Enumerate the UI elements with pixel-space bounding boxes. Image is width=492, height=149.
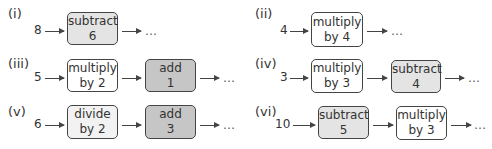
arrow-icon: [45, 31, 64, 32]
arrow-icon: [122, 78, 141, 79]
part-label: (i): [8, 6, 22, 21]
input-value: 10: [275, 117, 290, 131]
ellipsis: …: [391, 24, 404, 38]
input-value: 5: [34, 70, 42, 84]
ellipsis: …: [474, 118, 487, 132]
operation: add: [146, 61, 195, 76]
arrow-icon: [367, 31, 387, 32]
function-box: multiply by 2: [67, 59, 118, 92]
arrow-icon: [451, 125, 471, 126]
operand: 4: [392, 77, 440, 92]
operand: by 3: [397, 123, 446, 138]
ellipsis: …: [145, 24, 158, 38]
operation: subtract: [319, 108, 368, 123]
arrow-icon: [122, 31, 141, 32]
operand: by 3: [312, 76, 362, 91]
operation: multiply: [397, 108, 446, 123]
input-value: 6: [34, 117, 42, 131]
arrow-icon: [373, 125, 393, 126]
function-box: add 1: [145, 59, 196, 92]
operand: 1: [146, 76, 195, 91]
arrow-icon: [122, 125, 141, 126]
operation: multiply: [312, 15, 362, 30]
part-label: (v): [8, 104, 26, 119]
arrow-icon: [45, 125, 64, 126]
operand: 5: [319, 123, 368, 138]
function-box: divide by 2: [67, 105, 118, 139]
operand: by 2: [68, 76, 117, 91]
function-box: multiply by 3: [311, 59, 363, 93]
operand: 6: [68, 29, 117, 44]
arrow-icon: [200, 78, 219, 79]
arrow-icon: [200, 125, 219, 126]
function-box: multiply by 3: [396, 106, 447, 140]
arrow-icon: [290, 31, 308, 32]
operation: add: [146, 107, 195, 122]
operation: multiply: [312, 61, 362, 76]
function-box: subtract 4: [391, 60, 441, 93]
arrow-icon: [290, 78, 308, 79]
part-label: (ii): [255, 6, 272, 21]
arrow-icon: [293, 125, 315, 126]
operand: 3: [146, 122, 195, 137]
input-value: 4: [280, 23, 288, 37]
part-label: (iv): [255, 56, 276, 71]
input-value: 8: [34, 23, 42, 37]
ellipsis: …: [468, 71, 481, 85]
ellipsis: …: [223, 118, 236, 132]
operation: multiply: [68, 61, 117, 76]
function-box: add 3: [145, 105, 196, 139]
function-box: multiply by 4: [311, 12, 363, 47]
arrow-icon: [445, 78, 464, 79]
operation: divide: [68, 107, 117, 122]
operation: subtract: [392, 62, 440, 77]
ellipsis: …: [223, 71, 236, 85]
function-box: subtract 6: [67, 12, 118, 45]
arrow-icon: [45, 78, 64, 79]
operation: subtract: [68, 14, 117, 29]
input-value: 3: [280, 70, 288, 84]
part-label: (vi): [255, 104, 276, 119]
function-box: subtract 5: [318, 106, 369, 139]
operand: by 4: [312, 30, 362, 45]
part-label: (iii): [8, 56, 29, 71]
operand: by 2: [68, 122, 117, 137]
arrow-icon: [367, 78, 387, 79]
